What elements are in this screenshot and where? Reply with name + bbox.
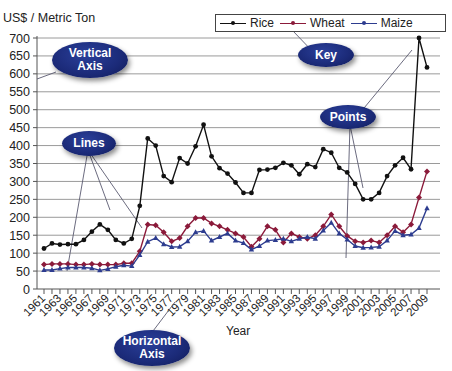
data-point (297, 172, 302, 177)
callout-key: Key (298, 43, 354, 67)
y-tick-label: 0 (23, 283, 30, 297)
data-point (241, 191, 246, 196)
data-point (50, 241, 55, 246)
data-point (385, 174, 390, 179)
data-point (273, 165, 278, 170)
data-point (177, 156, 182, 161)
data-point (153, 235, 158, 240)
data-point (249, 191, 254, 196)
data-point (201, 228, 206, 233)
data-point (369, 197, 374, 202)
callout-points: Points (320, 105, 376, 129)
data-point (368, 238, 374, 244)
data-point (257, 168, 262, 173)
legend-label-wheat: Wheat (310, 16, 345, 30)
y-tick-label: 100 (9, 247, 30, 261)
data-point (417, 36, 422, 41)
data-point (97, 262, 103, 268)
data-point (185, 161, 190, 166)
data-point (97, 222, 102, 227)
data-point (424, 205, 429, 210)
data-point (113, 237, 118, 242)
legend-item-wheat: Wheat (280, 16, 345, 30)
data-point (137, 203, 142, 208)
legend: Rice Wheat Maize (215, 14, 446, 32)
callout-leader-line (88, 150, 142, 228)
y-tick-label: 250 (9, 193, 30, 207)
data-point (401, 155, 406, 160)
y-tick-label: 700 (9, 32, 30, 46)
y-tick-label: 50 (16, 265, 30, 279)
data-point (145, 221, 151, 227)
data-point (321, 147, 326, 152)
data-point (66, 242, 71, 247)
data-point (74, 242, 79, 247)
data-point (209, 154, 214, 159)
data-point (233, 180, 238, 185)
data-point (153, 143, 158, 148)
legend-label-rice: Rice (250, 16, 274, 30)
callout-lines: Lines (62, 131, 116, 156)
data-point (425, 65, 430, 70)
data-point (329, 220, 334, 225)
data-point (41, 262, 47, 268)
y-tick-label: 600 (9, 67, 30, 81)
data-point (377, 191, 382, 196)
x-axis-title: Year (226, 324, 250, 338)
legend-item-maize: Maize (351, 16, 413, 30)
data-point (42, 246, 47, 251)
data-point (121, 241, 126, 246)
data-point (169, 180, 174, 185)
data-point (353, 182, 358, 187)
callout-vertical-axis: Vertical Axis (52, 42, 128, 78)
y-tick-label: 400 (9, 139, 30, 153)
data-point (49, 261, 55, 267)
rice-line-marker-icon (220, 18, 246, 28)
data-point (105, 227, 110, 232)
y-axis-title: US$ / Metric Ton (3, 11, 95, 25)
data-point (393, 163, 398, 168)
data-point (281, 160, 286, 165)
data-point (81, 237, 86, 242)
data-point (416, 225, 421, 230)
maize-line-marker-icon (351, 18, 377, 28)
data-point (361, 197, 366, 202)
data-point (265, 167, 270, 172)
data-point (305, 162, 310, 167)
y-tick-label: 450 (9, 121, 30, 135)
callout-horizontal-axis: Horizontal Axis (114, 330, 190, 366)
y-tick-label: 150 (9, 229, 30, 243)
callout-leader-line (88, 150, 110, 210)
data-point (201, 122, 206, 127)
y-tick-label: 550 (9, 85, 30, 99)
callout-leader-line (37, 72, 56, 79)
data-point (329, 150, 334, 155)
data-point (337, 165, 342, 170)
data-point (424, 168, 430, 174)
line-chart: 0501001502002503003504004505005506006507… (0, 0, 452, 371)
data-point (409, 167, 414, 172)
y-tick-label: 650 (9, 49, 30, 63)
wheat-line-marker-icon (280, 18, 306, 28)
y-tick-label: 500 (9, 103, 30, 117)
data-point (89, 229, 94, 234)
y-tick-label: 200 (9, 211, 30, 225)
data-point (225, 171, 230, 176)
data-point (161, 174, 166, 179)
data-point (313, 165, 318, 170)
y-tick-label: 300 (9, 175, 30, 189)
data-point (145, 136, 150, 141)
data-point (129, 236, 134, 241)
y-tick-label: 350 (9, 157, 30, 171)
data-point (345, 170, 350, 175)
legend-item-rice: Rice (220, 16, 274, 30)
data-point (289, 163, 294, 168)
legend-label-maize: Maize (381, 16, 413, 30)
data-point (217, 166, 222, 171)
data-point (217, 223, 223, 229)
data-point (360, 239, 366, 245)
data-point (193, 144, 198, 149)
data-point (58, 242, 63, 247)
